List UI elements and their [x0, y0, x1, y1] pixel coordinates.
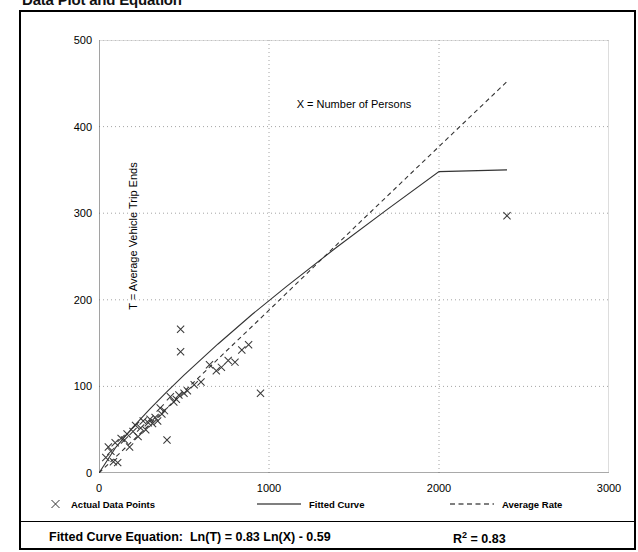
x-axis-title: X = Number of Persons — [99, 98, 609, 110]
legend-label: Actual Data Points — [71, 499, 155, 510]
x-marker-icon — [49, 498, 63, 510]
y-tick-label: 400 — [74, 121, 92, 133]
legend-item-actual-data-points: Actual Data Points — [49, 498, 155, 510]
chart-area: T = Average Vehicle Trip Ends X = Number… — [21, 12, 634, 492]
y-tick-label: 500 — [74, 34, 92, 46]
solid-line-icon — [257, 498, 301, 510]
data-points — [102, 212, 510, 466]
r-squared-number: = 0.83 — [471, 532, 506, 546]
r-squared-exponent: 2 — [462, 530, 467, 540]
average-rate-line — [99, 82, 507, 473]
legend-label: Average Rate — [502, 499, 562, 510]
y-axis-title: T = Average Vehicle Trip Ends — [127, 26, 139, 446]
r-squared-label: R — [453, 532, 462, 546]
x-tick-label: 1000 — [257, 482, 281, 494]
r-squared-value: R2 = 0.83 — [453, 530, 506, 546]
x-tick-label: 2000 — [427, 482, 451, 494]
equation-row: Fitted Curve Equation: Ln(T) = 0.83 Ln(X… — [21, 522, 634, 548]
chart-legend: Actual Data Points Fitted Curve Average … — [21, 494, 634, 520]
dashed-line-icon — [450, 498, 494, 510]
x-tick-label: 3000 — [597, 482, 621, 494]
equation-label: Fitted Curve Equation: — [49, 530, 183, 544]
legend-label: Fitted Curve — [309, 499, 364, 510]
plot-area: T = Average Vehicle Trip Ends X = Number… — [99, 40, 609, 473]
chart-page: Data Plot and Equation T = Average Vehic… — [0, 0, 638, 552]
page-title: Data Plot and Equation — [22, 0, 182, 8]
chart-panel: T = Average Vehicle Trip Ends X = Number… — [19, 10, 636, 550]
fitted-curve-equation: Fitted Curve Equation: Ln(T) = 0.83 Ln(X… — [49, 530, 331, 544]
legend-item-fitted-curve: Fitted Curve — [257, 498, 364, 510]
fitted-curve-line — [99, 170, 507, 473]
legend-item-average-rate: Average Rate — [450, 498, 562, 510]
x-tick-label: 0 — [96, 482, 102, 494]
y-tick-label: 200 — [74, 294, 92, 306]
y-tick-label: 300 — [74, 207, 92, 219]
y-tick-label: 100 — [74, 380, 92, 392]
equation-expression: Ln(T) = 0.83 Ln(X) - 0.59 — [190, 530, 331, 544]
y-tick-label: 0 — [86, 467, 92, 479]
